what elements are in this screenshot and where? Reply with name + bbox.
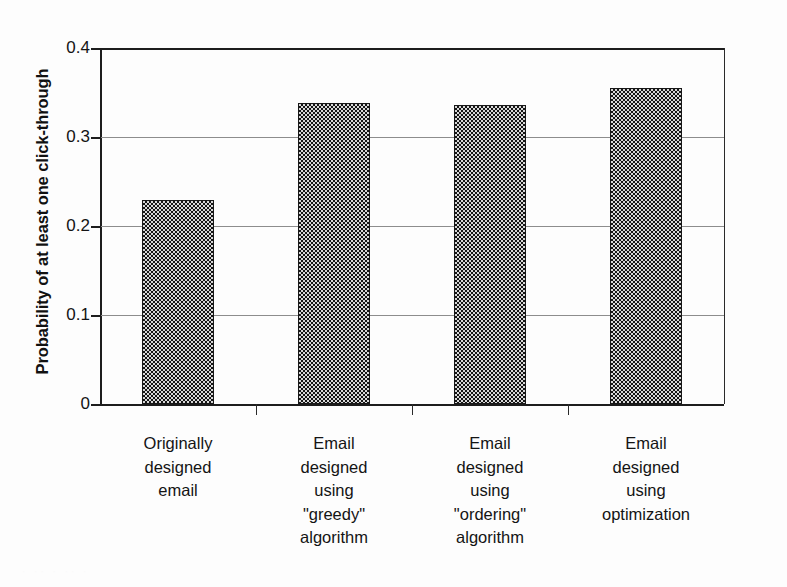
y-tickmark xyxy=(91,137,101,139)
x-axis-labels: OriginallydesignedemailEmaildesignedusin… xyxy=(100,432,724,582)
x-axis-category-label-line: Originally xyxy=(100,432,256,456)
x-axis-category-label: Emaildesignedusing"greedy"algorithm xyxy=(256,432,412,550)
plot-right-border xyxy=(724,48,725,404)
x-axis-category-label-line: algorithm xyxy=(412,526,568,550)
plot-area xyxy=(100,48,724,404)
scan-bleed-artifact: · ·· · ·· · xyxy=(22,566,89,577)
y-tick-label: 0.3 xyxy=(30,127,90,147)
x-axis-category-label: Originallydesignedemail xyxy=(100,432,256,503)
x-axis-category-label-line: designed xyxy=(412,456,568,480)
x-axis-category-label-line: using xyxy=(568,479,724,503)
x-axis-category-label-line: designed xyxy=(256,456,412,480)
x-tickmark xyxy=(568,404,569,415)
x-axis-category-label-line: using xyxy=(256,479,412,503)
x-axis-category-label-line: designed xyxy=(100,456,256,480)
bar xyxy=(142,200,214,404)
y-tick-label: 0.1 xyxy=(30,305,90,325)
x-axis-category-label-line: Email xyxy=(256,432,412,456)
y-tickmark xyxy=(91,48,101,50)
y-tickmark xyxy=(91,315,101,317)
bar-chart-figure: Probability of at least one click-throug… xyxy=(0,0,787,587)
x-axis-category-label-line: optimization xyxy=(568,503,724,527)
y-tick-label: 0.2 xyxy=(30,216,90,236)
bar xyxy=(454,105,526,404)
x-axis-category-label: Emaildesignedusingoptimization xyxy=(568,432,724,526)
y-axis-tick-labels: 0.40.30.20.10 xyxy=(28,0,90,587)
x-axis-category-label-line: algorithm xyxy=(256,526,412,550)
x-tickmark xyxy=(412,404,413,415)
bar xyxy=(298,103,370,404)
y-tickmark xyxy=(91,404,101,406)
bar xyxy=(610,88,682,404)
x-axis-category-label-line: Email xyxy=(412,432,568,456)
plot-top-border xyxy=(100,48,724,50)
x-tickmark xyxy=(256,404,257,415)
x-axis-category-label-line: "ordering" xyxy=(412,503,568,527)
x-axis-category-label-line: Email xyxy=(568,432,724,456)
y-tickmark xyxy=(91,226,101,228)
y-tick-label: 0 xyxy=(30,394,90,414)
x-axis-category-label-line: "greedy" xyxy=(256,503,412,527)
x-axis-category-label-line: email xyxy=(100,479,256,503)
y-tick-label: 0.4 xyxy=(30,38,90,58)
x-axis-category-label-line: using xyxy=(412,479,568,503)
x-axis-category-label: Emaildesignedusing"ordering"algorithm xyxy=(412,432,568,550)
x-axis-category-label-line: designed xyxy=(568,456,724,480)
